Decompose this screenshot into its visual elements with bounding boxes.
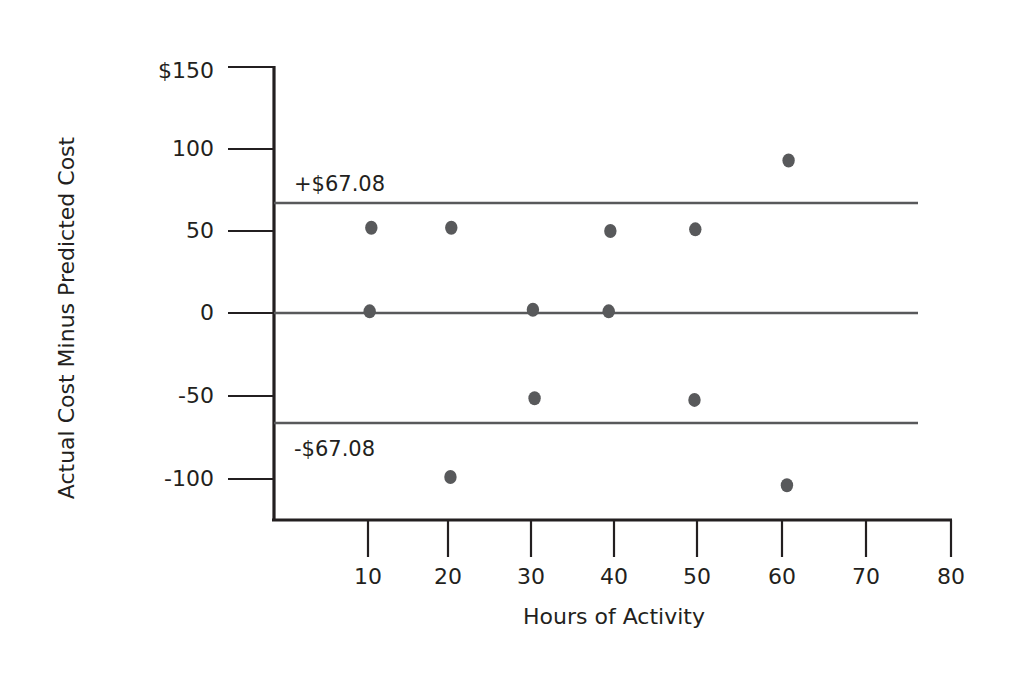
y-tick-label-100: 100 [172, 136, 214, 161]
x-tick-label-40: 40 [600, 564, 628, 589]
y-tick-label-0: 0 [200, 300, 214, 325]
data-point [444, 470, 456, 484]
x-tick-label-60: 60 [768, 564, 796, 589]
x-tick-label-80: 80 [937, 564, 965, 589]
y-tick-label-50: 50 [186, 218, 214, 243]
data-point [604, 224, 616, 238]
x-axis-title: Hours of Activity [523, 604, 705, 629]
data-point [689, 222, 701, 236]
x-tick-label-20: 20 [434, 564, 462, 589]
x-tick-label-10: 10 [354, 564, 382, 589]
data-point [527, 303, 539, 317]
upper-limit-label: +$67.08 [294, 172, 385, 196]
y-tick-label-minus50: -50 [178, 383, 214, 408]
data-point [781, 478, 793, 492]
data-point [688, 393, 700, 407]
data-point [528, 391, 540, 405]
data-point [363, 304, 375, 318]
y-tick-label-150: $150 [158, 58, 214, 83]
x-tick-label-50: 50 [683, 564, 711, 589]
lower-limit-label: -$67.08 [294, 437, 375, 461]
data-point [782, 153, 794, 167]
chart-canvas: $150 100 50 0 -50 -100 Actual Cost Minus… [0, 0, 1014, 674]
y-axis-title: Actual Cost Minus Predicted Cost [54, 136, 79, 499]
x-tick-label-30: 30 [517, 564, 545, 589]
data-point [445, 221, 457, 235]
residual-chart: $150 100 50 0 -50 -100 Actual Cost Minus… [0, 0, 1014, 674]
y-tick-label-minus100: -100 [164, 466, 214, 491]
data-point [603, 304, 615, 318]
x-tick-label-70: 70 [852, 564, 880, 589]
data-point [365, 221, 377, 235]
